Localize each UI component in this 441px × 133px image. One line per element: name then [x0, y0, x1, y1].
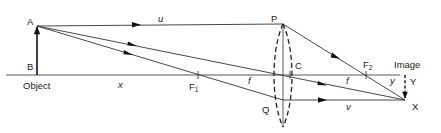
parallel-ray [37, 22, 405, 100]
label-f2: F2 [363, 59, 373, 71]
ray-arrow [132, 22, 141, 28]
label-p: P [271, 13, 277, 24]
label-f-left: f [248, 75, 252, 86]
label-q: Q [262, 104, 269, 115]
ray-segment-a-q [37, 26, 283, 100]
ray-arrow [317, 81, 327, 86]
ray-arrow [318, 97, 327, 103]
label-c: C [295, 60, 302, 71]
central-ray [37, 26, 405, 100]
ray-diagram: A B P Q C F1 F2 X Y Object Image u x f f… [0, 0, 441, 133]
ray-segment-a-x [37, 26, 405, 100]
label-b: B [27, 61, 33, 72]
label-y-distance: y [389, 75, 396, 86]
label-f-right: f [346, 75, 350, 86]
ray-segment-a-p [37, 24, 283, 26]
ray-arrow [127, 42, 137, 47]
ray-arrow [123, 50, 133, 55]
label-a: A [27, 16, 34, 27]
label-object: Object [23, 80, 51, 91]
label-x: X [412, 101, 419, 112]
label-v: v [346, 101, 352, 112]
label-y: Y [410, 76, 417, 87]
label-u: u [158, 13, 164, 24]
ray-arrow [331, 53, 340, 59]
label-image: Image [394, 59, 420, 70]
label-x-distance: x [117, 79, 124, 90]
label-f1: F1 [189, 81, 199, 93]
